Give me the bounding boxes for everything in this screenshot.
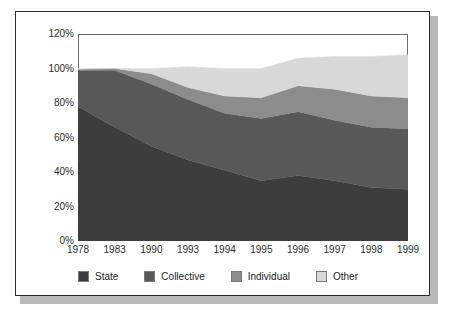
x-tick-label: 1996	[287, 244, 309, 256]
y-tick-label: 80%	[18, 98, 74, 108]
x-axis-ticks: 1978198319901993199419951996199719981999	[78, 244, 408, 258]
legend-label: Individual	[248, 271, 290, 282]
y-tick-label: 40%	[18, 167, 74, 177]
x-tick-label: 1990	[140, 244, 162, 256]
x-tick-label: 1978	[67, 244, 89, 256]
plot-wrapper: 120%100%80%60%40%20%0% 19781983199019931…	[16, 12, 429, 295]
figure-border: 120%100%80%60%40%20%0% 19781983199019931…	[15, 11, 430, 296]
legend-entry-collective[interactable]: Collective	[144, 271, 204, 282]
legend-swatch-icon	[316, 271, 327, 282]
legend-swatch-icon	[78, 271, 89, 282]
y-tick-label: 20%	[18, 202, 74, 212]
x-tick-label: 1998	[360, 244, 382, 256]
chart-legend: StateCollectiveIndividualOther	[78, 268, 410, 284]
legend-swatch-icon	[231, 271, 242, 282]
legend-swatch-icon	[144, 271, 155, 282]
y-tick-label: 0%	[18, 236, 74, 246]
x-tick-label: 1983	[104, 244, 126, 256]
legend-label: Other	[333, 271, 358, 282]
y-tick-label: 100%	[18, 64, 74, 74]
x-tick-label: 1997	[324, 244, 346, 256]
stacked-area-series	[78, 34, 408, 241]
chart-figure: 120%100%80%60%40%20%0% 19781983199019931…	[0, 0, 449, 316]
x-tick-label: 1999	[397, 244, 419, 256]
legend-entry-other[interactable]: Other	[316, 271, 358, 282]
y-tick-label: 60%	[18, 133, 74, 143]
x-tick-label: 1993	[177, 244, 199, 256]
y-axis-ticks: 120%100%80%60%40%20%0%	[16, 12, 74, 295]
legend-entry-state[interactable]: State	[78, 271, 118, 282]
y-tick-label: 120%	[18, 29, 74, 39]
x-tick-label: 1994	[214, 244, 236, 256]
x-tick-label: 1995	[250, 244, 272, 256]
legend-label: State	[95, 271, 118, 282]
legend-entry-individual[interactable]: Individual	[231, 271, 290, 282]
legend-label: Collective	[161, 271, 204, 282]
